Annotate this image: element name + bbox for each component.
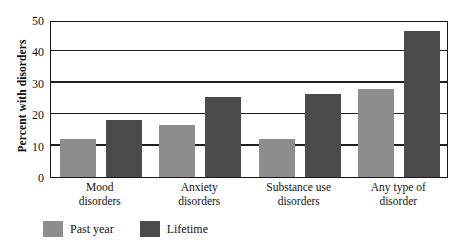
bar-lifetime [205,97,241,177]
category-label: Anxietydisorders [150,181,250,208]
y-tick-label-50: 50 [18,15,44,27]
bar-group [259,22,341,177]
bar-lifetime [404,31,440,177]
category-label-line: disorders [50,195,150,209]
category-label: Substance usedisorders [249,181,349,208]
plot-area [50,21,448,178]
x-axis-category-labels: MooddisordersAnxietydisordersSubstance u… [50,181,448,215]
bar-lifetime [305,94,341,177]
bar-group [159,22,241,177]
category-label-line: disorder [349,195,449,209]
bar-past-year [358,89,394,177]
bar-group [358,22,440,177]
legend-swatch-past-year [43,221,63,237]
category-label-line: disorders [150,195,250,209]
category-label-line: Any type of [349,181,449,195]
bar-group [60,22,142,177]
bar-past-year [259,139,295,177]
legend-spacer [114,229,140,230]
y-tick-label-10: 10 [18,141,44,153]
category-label: Mooddisorders [50,181,150,208]
bar-chart-figure: Percent with disorders 01020304050 Moodd… [0,0,458,248]
legend-item-lifetime: Lifetime [140,221,208,237]
bar-past-year [60,139,96,177]
category-label: Any type ofdisorder [349,181,449,208]
y-tick-label-0: 0 [18,172,44,184]
y-tick-label-30: 30 [18,78,44,90]
bar-past-year [159,125,195,177]
legend-swatch-lifetime [140,221,160,237]
category-label-line: Substance use [249,181,349,195]
y-tick-label-40: 40 [18,46,44,58]
legend-label-past-year: Past year [70,222,114,237]
chart-legend: Past year Lifetime [43,221,208,237]
category-label-line: Mood [50,181,150,195]
y-tick-label-20: 20 [18,109,44,121]
legend-label-lifetime: Lifetime [167,222,208,237]
legend-item-past-year: Past year [43,221,114,237]
bar-lifetime [106,120,142,177]
y-axis-tick-labels: 01020304050 [18,0,44,248]
category-label-line: Anxiety [150,181,250,195]
category-label-line: disorders [249,195,349,209]
